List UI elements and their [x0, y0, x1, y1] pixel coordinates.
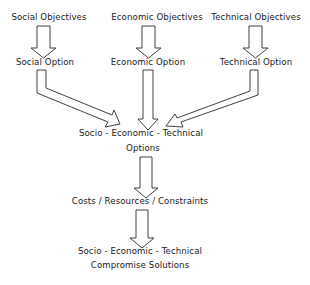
flow-diagram: Social Objectives Economic Objectives Te…	[0, 0, 310, 285]
result-line2: Compromise Solutions	[91, 260, 189, 270]
social-objectives-label: Social Objectives	[11, 12, 86, 22]
result-line1: Socio - Economic - Technical	[78, 246, 202, 256]
constraints-label: Costs / Resources / Constraints	[72, 196, 208, 206]
arrow-options-to-costs	[134, 157, 158, 198]
combined-options-line1: Socio - Economic - Technical	[79, 128, 203, 138]
technical-option-label: Technical Option	[220, 57, 292, 67]
arrow-technical-down	[243, 26, 268, 58]
arrow-costs-to-solutions	[130, 210, 154, 248]
arrow-social-down	[31, 26, 56, 58]
arrow-economic-to-combined	[138, 70, 158, 130]
economic-objectives-label: Economic Objectives	[111, 12, 202, 22]
arrow-social-to-combined	[37, 70, 120, 127]
arrow-economic-down	[136, 26, 161, 58]
economic-option-label: Economic Option	[111, 57, 186, 67]
combined-options-line2: Options	[126, 143, 160, 153]
social-option-label: Social Option	[16, 57, 74, 67]
technical-objectives-label: Technical Objectives	[211, 12, 300, 22]
arrow-technical-to-combined	[166, 70, 258, 127]
